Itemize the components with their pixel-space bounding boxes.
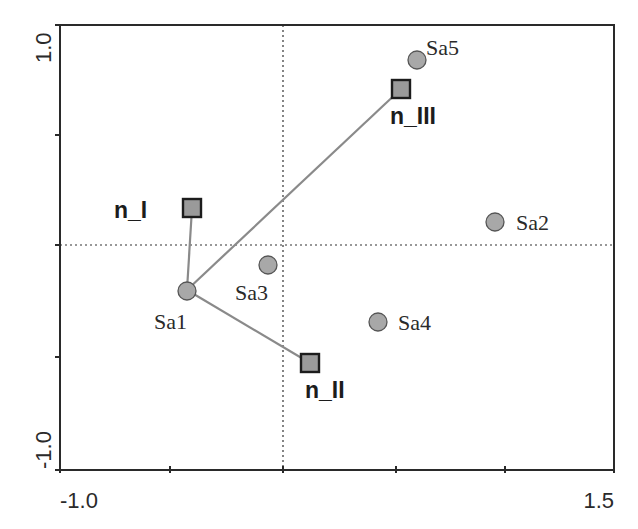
label-sa3: Sa3 <box>235 280 268 305</box>
label-n-ii: n_II <box>305 377 345 403</box>
point-sa5[interactable] <box>408 51 426 69</box>
y-axis-max-label: 1.0 <box>31 32 56 63</box>
label-n-i: n_I <box>114 197 147 223</box>
plot-frame <box>60 25 614 470</box>
link-sa1-n-iii <box>187 89 401 290</box>
point-n-ii[interactable] <box>301 354 319 372</box>
point-sa2[interactable] <box>486 213 504 231</box>
sample-points <box>178 51 504 331</box>
x-axis-min-label: -1.0 <box>60 488 98 513</box>
point-sa4[interactable] <box>369 313 387 331</box>
x-axis-max-label: 1.5 <box>583 488 614 513</box>
label-sa4: Sa4 <box>398 310 431 335</box>
point-sa3[interactable] <box>259 256 277 274</box>
label-n-iii: n_III <box>390 103 436 129</box>
point-n-i[interactable] <box>183 199 201 217</box>
ordination-biplot: -1.0 1.5 1.0 -1.0 Sa1 Sa2 Sa3 Sa4 Sa5 n_… <box>0 0 638 529</box>
link-sa1-n-i <box>187 208 192 290</box>
label-sa5: Sa5 <box>426 35 459 60</box>
label-sa1: Sa1 <box>154 309 187 334</box>
point-sa1[interactable] <box>178 282 196 300</box>
label-sa2: Sa2 <box>516 210 549 235</box>
point-n-iii[interactable] <box>392 80 410 98</box>
y-axis-min-label: -1.0 <box>31 431 56 469</box>
